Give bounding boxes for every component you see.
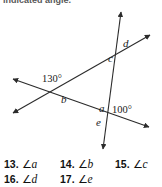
exercise-number: 16. (4, 173, 19, 185)
exercise-number: 14. (60, 158, 75, 170)
exercise-angle-letter: b (88, 158, 94, 170)
label-angle-c: c (108, 53, 113, 64)
exercise-angle: ∠d (22, 173, 38, 185)
label-angle-a: a (99, 103, 105, 114)
line-shallow-down (13, 79, 149, 127)
line-rising (13, 35, 150, 113)
angle-symbol-icon: ∠ (22, 173, 32, 185)
angle-symbol-icon: ∠ (22, 158, 32, 170)
exercise-angle-letter: d (32, 173, 38, 185)
angle-symbol-icon: ∠ (78, 173, 88, 185)
label-angle-100: 100° (112, 105, 132, 116)
label-angle-130: 130° (42, 74, 62, 85)
exercise-item-17[interactable]: 17.∠e (60, 170, 93, 187)
angle-diagram: 130° b c d a 100° e (0, 7, 162, 155)
exercise-angle: ∠c (133, 158, 148, 170)
exercise-angle-letter: e (88, 173, 93, 185)
angle-symbol-icon: ∠ (78, 158, 88, 170)
exercise-row: 13.∠a 14.∠b 15.∠c (0, 155, 162, 171)
diagram-svg (0, 7, 162, 155)
exercise-angle: ∠e (78, 173, 93, 185)
instruction-line: indicated angle. (0, 0, 162, 7)
worksheet-page: indicated angle. 130° b c d a 100° e (0, 0, 162, 187)
label-angle-d: d (123, 38, 129, 49)
exercise-row: 16.∠d 17.∠e (0, 170, 162, 186)
exercise-number: 17. (60, 173, 75, 185)
exercise-angle: ∠b (78, 158, 94, 170)
label-angle-e: e (96, 117, 101, 128)
instruction-text: indicated angle. (3, 0, 71, 5)
angle-symbol-icon: ∠ (133, 158, 143, 170)
exercise-list: 13.∠a 14.∠b 15.∠c 16.∠d 17.∠e (0, 155, 162, 187)
label-angle-b: b (61, 94, 67, 105)
line-steep-vertical (103, 12, 121, 149)
exercise-number: 13. (4, 158, 19, 170)
exercise-angle-letter: a (32, 158, 38, 170)
exercise-angle: ∠a (22, 158, 38, 170)
exercise-number: 15. (115, 158, 130, 170)
exercise-item-16[interactable]: 16.∠d (4, 170, 37, 187)
exercise-angle-letter: c (143, 158, 148, 170)
